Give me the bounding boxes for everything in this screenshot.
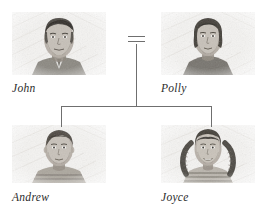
marriage-equals-icon [128, 37, 145, 42]
family-tree-diagram: John [0, 0, 268, 210]
genealogy-connectors [0, 0, 268, 210]
